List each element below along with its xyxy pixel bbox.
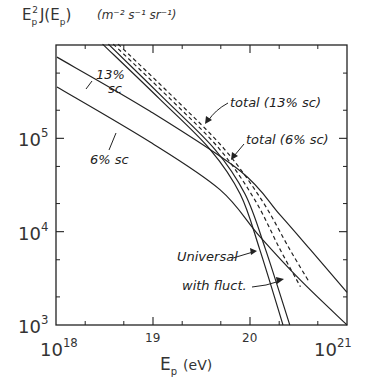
chart: Ep2J(Ep) (m⁻² s⁻¹ sr⁻¹) 1031041051018192… <box>0 0 367 383</box>
tick-label: 20 <box>242 331 257 345</box>
y-axis-label: Ep2J(Ep) (m⁻² s⁻¹ sr⁻¹) <box>22 5 177 27</box>
x-axis-label: Ep(eV) <box>160 354 212 377</box>
series-total-13-sc- <box>118 44 309 282</box>
label-with-fluct: with fluct. <box>182 278 247 293</box>
label-13pct-sc: 13% <box>96 67 125 82</box>
label-universal: Universal <box>177 249 238 264</box>
label-total-13pct: total (13% sc) <box>230 95 321 110</box>
label-total-6pct: total (6% sc) <box>246 132 329 147</box>
label-6pct-sc: 6% sc <box>90 152 129 167</box>
tick-label: 1018 <box>40 336 78 360</box>
tick-label: 105 <box>18 126 48 150</box>
svg-text:(m⁻² s⁻¹ sr⁻¹): (m⁻² s⁻¹ sr⁻¹) <box>97 8 177 22</box>
tick-label: 104 <box>18 220 48 244</box>
label-13pct-sc-2: sc <box>108 81 122 96</box>
tick-label: 103 <box>18 313 48 337</box>
svg-text:Ep2J(Ep): Ep2J(Ep) <box>22 5 71 27</box>
tick-label: 1021 <box>314 336 352 360</box>
tick-label: 19 <box>145 331 160 345</box>
